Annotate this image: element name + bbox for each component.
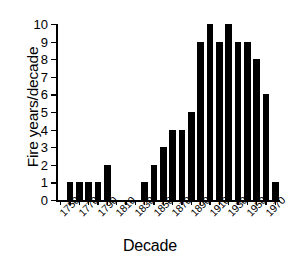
x-tick-mark	[97, 200, 98, 205]
bar	[197, 42, 204, 200]
y-tick-label: 9	[41, 35, 48, 48]
bar	[263, 94, 270, 200]
y-tick-mark	[51, 24, 56, 25]
y-tick-label: 0	[41, 194, 48, 207]
bar	[207, 24, 214, 200]
y-tick-mark	[51, 77, 56, 78]
fire-years-bar-chart: Fire years/decade 012345678910 175017701…	[0, 0, 300, 261]
x-tick-mark	[153, 200, 154, 205]
bar	[169, 130, 176, 200]
y-tick-mark	[51, 42, 56, 43]
x-tick-mark	[237, 200, 238, 205]
bar	[179, 130, 186, 200]
y-tick-mark	[51, 147, 56, 148]
y-tick-label: 10	[34, 18, 48, 31]
x-tick-mark	[265, 200, 266, 205]
bar	[216, 42, 223, 200]
plot-area: 012345678910 175017701790181018301850187…	[56, 24, 280, 200]
x-tick-mark	[125, 200, 126, 205]
x-tick-mark	[200, 200, 201, 205]
x-tick-mark	[144, 200, 145, 205]
y-tick-mark	[51, 165, 56, 166]
x-tick-mark	[181, 200, 182, 205]
bar	[188, 112, 195, 200]
bar	[272, 182, 279, 200]
bar	[85, 182, 92, 200]
x-axis-title: Decade	[0, 237, 300, 255]
x-tick-mark	[88, 200, 89, 205]
y-axis-line	[56, 24, 58, 200]
y-tick-label: 7	[41, 70, 48, 83]
bar	[76, 182, 83, 200]
y-tick-mark	[51, 130, 56, 131]
bar	[235, 42, 242, 200]
y-tick-mark	[51, 112, 56, 113]
bar	[104, 165, 111, 200]
y-tick-label: 2	[41, 158, 48, 171]
x-tick-mark	[256, 200, 257, 205]
y-tick-label: 3	[41, 141, 48, 154]
bar	[151, 165, 158, 200]
bar	[95, 182, 102, 200]
y-tick-label: 1	[41, 176, 48, 189]
y-tick-mark	[51, 182, 56, 183]
x-tick-mark	[69, 200, 70, 205]
y-tick-label: 8	[41, 53, 48, 66]
bar	[225, 24, 232, 200]
y-axis-title: Fire years/decade	[24, 22, 42, 192]
x-tick-mark	[275, 200, 276, 205]
bar	[67, 182, 74, 200]
y-tick-mark	[51, 59, 56, 60]
bar	[160, 147, 167, 200]
bar	[141, 182, 148, 200]
x-tick-mark	[219, 200, 220, 205]
y-tick-mark	[51, 94, 56, 95]
x-tick-mark	[107, 200, 108, 205]
x-tick-mark	[209, 200, 210, 205]
y-tick-mark	[51, 200, 56, 201]
bar	[253, 59, 260, 200]
y-tick-label: 6	[41, 88, 48, 101]
bar	[244, 42, 251, 200]
y-tick-label: 5	[41, 106, 48, 119]
x-tick-mark	[163, 200, 164, 205]
y-tick-label: 4	[41, 123, 48, 136]
